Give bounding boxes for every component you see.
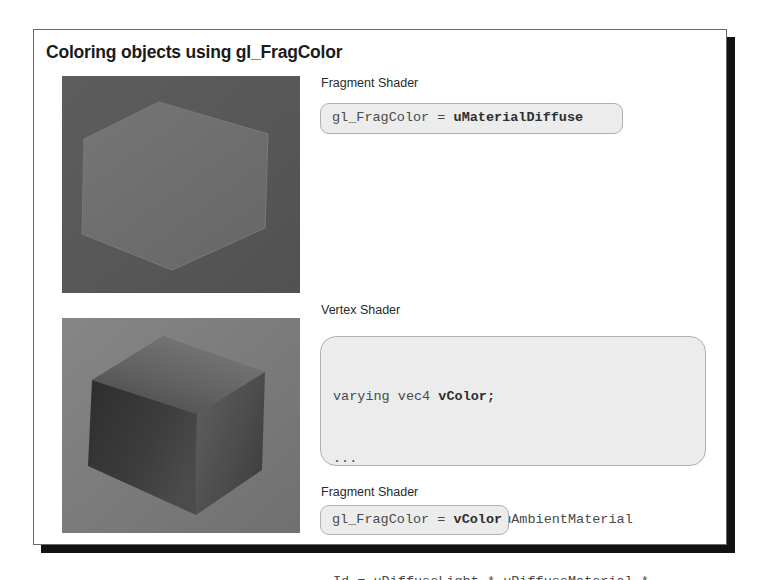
code-box-fragment-shader-bottom: gl_FragColor = vColor	[320, 505, 509, 535]
code-text-plain: Id = uDiffuseLight * uDiffuseMaterial *	[333, 574, 649, 580]
code-box-fragment-shader-top: gl_FragColor = uMaterialDiffuse	[320, 103, 623, 134]
code-text-bold: vColor	[454, 510, 503, 530]
code-box-vertex-shader: varying vec4 vColor; ... Ia = uAmbientLi…	[320, 336, 706, 466]
figure-page: Coloring objects using gl_FragColor	[0, 0, 763, 580]
code-line: varying vec4 vColor;	[333, 387, 693, 408]
code-text-bold: vColor;	[438, 389, 495, 404]
code-text-plain: gl_FragColor =	[332, 510, 454, 530]
code-text-plain: varying vec4	[333, 389, 438, 404]
flat-cube-svg	[62, 76, 300, 293]
code-line: Id = uDiffuseLight * uDiffuseMaterial *	[333, 572, 693, 580]
render-flat-colored-cube	[62, 76, 300, 293]
figure-title: Coloring objects using gl_FragColor	[46, 42, 342, 63]
code-line: ...	[333, 449, 693, 470]
code-text-plain: gl_FragColor =	[332, 108, 454, 128]
render-gouraud-shaded-cube	[62, 318, 300, 533]
label-fragment-shader-top: Fragment Shader	[321, 76, 418, 90]
label-fragment-shader-bottom: Fragment Shader	[321, 485, 418, 499]
gouraud-cube-svg	[62, 318, 300, 533]
code-text-plain: ...	[333, 451, 357, 466]
code-text-bold: uMaterialDiffuse	[454, 108, 584, 128]
label-vertex-shader: Vertex Shader	[321, 303, 400, 317]
